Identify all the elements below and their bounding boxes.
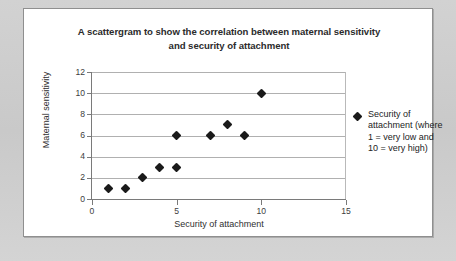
data-point [155,162,165,172]
data-point [172,162,182,172]
gridline [92,157,346,158]
gridline [92,93,346,94]
y-axis-tick-label-wrap: 12 [62,68,85,77]
chart-card: A scattergram to show the correlation be… [23,8,433,237]
gridline [92,178,346,179]
x-axis-tick [177,200,178,205]
legend: Security of attachment (where 1 = very l… [354,109,452,155]
y-axis-tick-label-wrap: 2 [62,173,85,182]
y-axis-tick-label: 0 [65,195,85,204]
data-point [172,131,182,141]
x-axis-line [92,199,346,200]
x-axis-title: Security of attachment [92,219,346,229]
y-axis-tick-label: 6 [65,131,85,140]
y-axis-title: Maternal sensitivity [41,50,51,170]
y-axis-tick-label: 12 [65,68,85,77]
x-axis-tick [346,200,347,205]
gridline [92,72,346,73]
data-point [223,120,233,130]
y-axis-tick-label: 2 [65,173,85,182]
data-point [104,183,114,193]
y-axis-tick-label-wrap: 0 [62,195,85,204]
data-point [206,131,216,141]
screenshot-frame: A scattergram to show the correlation be… [0,0,456,261]
data-point [256,88,266,98]
x-axis-tick [261,200,262,205]
x-axis-tick-label: 15 [331,207,361,216]
chart-title-line-1: A scattergram to show the correlation be… [42,25,416,39]
x-axis-tick-label: 0 [77,207,107,216]
data-point [121,183,131,193]
chart-title-line-2: and security of attachment [42,39,416,53]
legend-label: Security of attachment (where 1 = very l… [368,109,446,155]
legend-diamond-icon [353,112,363,122]
y-axis-tick-label: 4 [65,152,85,161]
y-axis-tick-label-wrap: 8 [62,110,85,119]
gridline [92,114,346,115]
x-axis-tick-label: 10 [246,207,276,216]
plot-area [92,72,346,199]
x-axis-tick-label: 5 [162,207,192,216]
data-point [138,173,148,183]
y-axis-tick-label: 8 [65,110,85,119]
y-axis-tick-label-wrap: 6 [62,131,85,140]
y-axis-tick-label-wrap: 10 [62,89,85,98]
gridline [92,136,346,137]
y-axis-tick-label: 10 [65,89,85,98]
data-point [239,131,249,141]
chart-title: A scattergram to show the correlation be… [42,25,416,52]
x-axis-tick [92,200,93,205]
y-axis-tick-label-wrap: 4 [62,152,85,161]
plot-right-border [345,72,346,199]
